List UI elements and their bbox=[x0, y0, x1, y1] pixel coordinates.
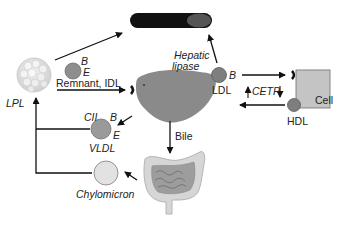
liver-icon bbox=[136, 70, 216, 123]
lpl-label: LPL bbox=[6, 98, 25, 109]
arrow-ldl-to-artery bbox=[209, 35, 217, 63]
chylomicron-particle-icon bbox=[94, 161, 118, 185]
ldl-particle-icon bbox=[212, 68, 227, 83]
lpl-lipid-cluster-icon bbox=[17, 58, 51, 92]
hdl-particle-icon bbox=[288, 99, 301, 112]
artery-icon bbox=[130, 13, 212, 28]
bile-label: Bile bbox=[175, 131, 193, 142]
remnant-idl-label: Remnant, IDL bbox=[56, 78, 121, 89]
chylomicron-label: Chylomicron bbox=[76, 189, 134, 200]
cell-label: Cell bbox=[315, 95, 333, 106]
intestine-icon bbox=[144, 152, 205, 214]
vldl-label: VLDL bbox=[89, 143, 115, 154]
cell-receptor-icon bbox=[292, 71, 294, 79]
liver-detail bbox=[143, 84, 145, 86]
vldl-apo-e-label: E bbox=[113, 130, 120, 141]
lipoprotein-metabolism-diagram: LPL B E Remnant, IDL Hepatic lipase B LD… bbox=[0, 0, 352, 226]
remnant-apo-b-label: B bbox=[81, 56, 88, 67]
cetp-label: CETP bbox=[252, 86, 280, 97]
return-line-chylomicron-to-lpl bbox=[36, 98, 92, 173]
ldl-label: LDL bbox=[212, 85, 231, 96]
remnant-apo-e-label: E bbox=[83, 67, 90, 78]
vldl-apo-b-label: B bbox=[110, 112, 117, 123]
hepatic-lipase-label-line2: lipase bbox=[172, 61, 199, 72]
vldl-apo-cii-label: CII bbox=[84, 112, 97, 123]
diagram-graphics bbox=[0, 0, 352, 226]
liver-receptor-icon bbox=[131, 86, 133, 94]
hepatic-lipase-label-line1: Hepatic bbox=[174, 50, 210, 61]
hdl-label: HDL bbox=[287, 116, 308, 127]
arrow-intestine-to-chylomicron bbox=[125, 172, 137, 180]
arrow-liver-to-vldl bbox=[118, 116, 132, 125]
ldl-apo-b-label: B bbox=[229, 70, 236, 81]
arrow-lpl-to-artery bbox=[55, 33, 122, 60]
